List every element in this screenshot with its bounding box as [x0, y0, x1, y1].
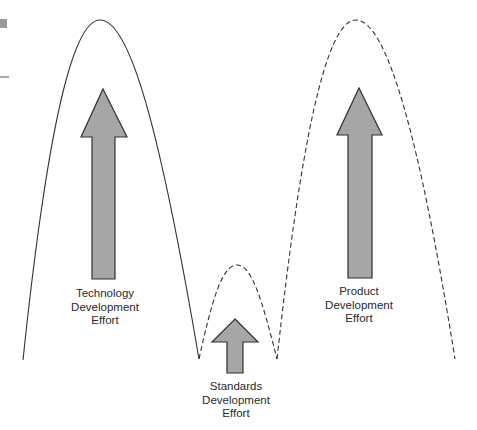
- standards-label-line1: Standards: [202, 380, 270, 394]
- technology-effort-arrow: [81, 89, 127, 279]
- product-effort-arrow: [337, 88, 382, 278]
- product-label-line3: Effort: [325, 312, 393, 326]
- standards-label: Standards Development Effort: [202, 380, 270, 421]
- standards-label-line2: Development: [202, 394, 270, 408]
- technology-label: Technology Development Effort: [71, 287, 139, 328]
- edge-marker: [0, 19, 7, 28]
- product-label-line2: Development: [325, 299, 393, 313]
- technology-label-line1: Technology: [71, 287, 139, 301]
- technology-label-line3: Effort: [71, 314, 139, 328]
- technology-label-line2: Development: [71, 301, 139, 315]
- standards-effort-arrow: [212, 319, 258, 373]
- product-label-line1: Product: [325, 285, 393, 299]
- product-label: Product Development Effort: [325, 285, 393, 326]
- effort-diagram: [0, 0, 477, 430]
- standards-label-line3: Effort: [202, 407, 270, 421]
